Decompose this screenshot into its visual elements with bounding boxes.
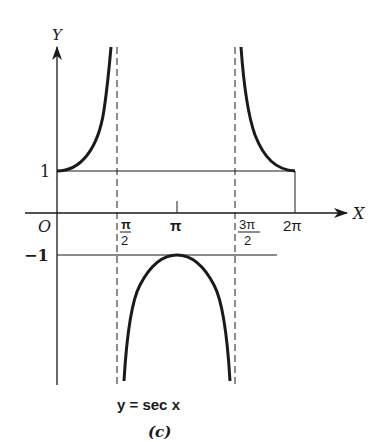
sec-curve-branch-1 bbox=[57, 47, 111, 171]
x-tick-label-pi: π bbox=[170, 217, 182, 234]
origin-label: O bbox=[38, 217, 51, 236]
y-tick-label-neg1: −1 bbox=[24, 246, 49, 265]
sec-curve-branch-3 bbox=[241, 47, 295, 171]
y-tick-label-1: 1 bbox=[40, 162, 50, 181]
x-tick-label-pi-over-2-den: 2 bbox=[121, 233, 128, 248]
x-tick-label-2pi: 2π bbox=[283, 217, 302, 234]
sec-curve-branch-2 bbox=[124, 255, 230, 381]
chart-canvas: Y X O 1 −1 π 2 π 3π 2 2π y = sec x (c) bbox=[0, 0, 383, 442]
chart-caption: (c) bbox=[148, 423, 171, 441]
x-tick-label-pi-over-2-num: π bbox=[121, 217, 131, 232]
x-tick-label-3pi-over-2-den: 2 bbox=[244, 233, 251, 248]
x-tick-label-3pi-over-2-num: 3π bbox=[239, 217, 255, 232]
x-axis-label: X bbox=[351, 204, 365, 223]
y-axis-label: Y bbox=[52, 26, 64, 44]
chart-title: y = sec x bbox=[117, 396, 181, 413]
